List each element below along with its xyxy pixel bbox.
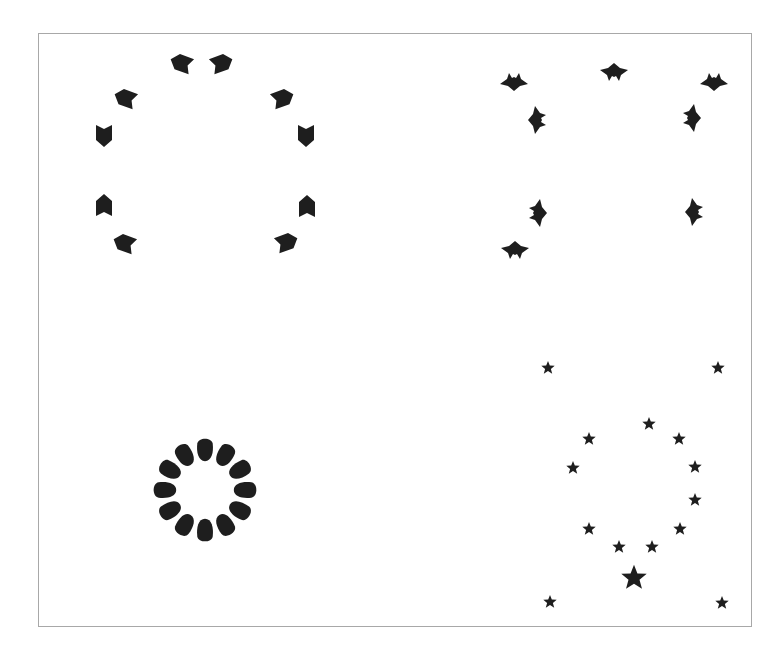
petal-icon — [234, 482, 257, 498]
crown-shapes — [500, 63, 728, 259]
star-cluster — [541, 361, 728, 609]
crown-icon — [501, 241, 529, 259]
arrowhead-icon — [112, 87, 138, 110]
crown-icon — [500, 73, 528, 91]
arrowhead-icon — [168, 52, 194, 75]
star-icon — [642, 417, 655, 430]
petal-icon — [197, 439, 213, 462]
petal-icon — [197, 519, 213, 542]
arrowhead-icon — [111, 232, 137, 255]
shapes-canvas — [0, 0, 776, 670]
star-icon — [645, 540, 658, 553]
arrowhead-icon — [96, 125, 112, 147]
petal-ring — [154, 439, 257, 542]
crown-icon — [685, 198, 703, 226]
star-icon — [688, 493, 701, 506]
star-icon — [672, 432, 685, 445]
crown-icon — [700, 73, 728, 91]
star-icon — [711, 361, 724, 374]
arrowhead-icon — [270, 87, 296, 110]
crown-icon — [683, 104, 701, 132]
star-icon — [543, 595, 556, 608]
star-icon — [612, 540, 625, 553]
star-icon — [621, 565, 646, 589]
arrowhead-icon — [96, 194, 112, 216]
star-icon — [566, 461, 579, 474]
petal-icon — [154, 482, 177, 498]
star-icon — [715, 596, 728, 609]
arrowhead-icon — [299, 195, 315, 217]
crown-icon — [529, 199, 547, 227]
star-icon — [582, 522, 595, 535]
star-icon — [541, 361, 554, 374]
arrowhead-icon — [298, 125, 314, 147]
arrowhead-icon — [209, 52, 235, 75]
arrowhead-icon — [274, 231, 300, 254]
crown-icon — [600, 63, 628, 81]
arrowhead-ring — [96, 52, 315, 255]
crown-icon — [528, 106, 546, 134]
star-icon — [688, 460, 701, 473]
star-icon — [673, 522, 686, 535]
star-icon — [582, 432, 595, 445]
